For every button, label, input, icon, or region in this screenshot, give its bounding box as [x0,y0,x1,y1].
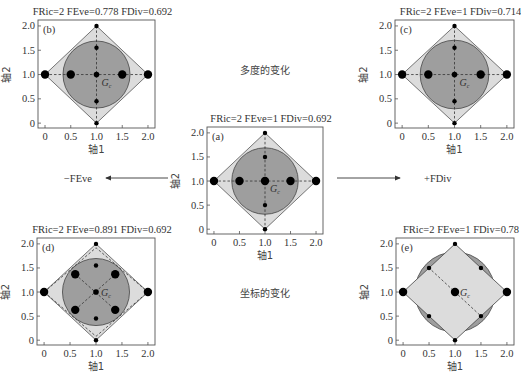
species-point [479,314,483,318]
y-tick-label: 0 [199,224,204,235]
x-tick-label: 1.5 [116,131,129,142]
panel-a: FRic=2 FEve=1 FDiv=0.692Gc(a)000.50.51.0… [169,113,332,261]
species-point [427,266,431,270]
panel-title: FRic=2 FEve=0.891 FDiv=0.692 [32,224,172,235]
x-tick-label: 2.0 [141,131,154,142]
species-point [94,338,98,342]
panel-title: FRic=2 FEve=1 FDiv=0.714 [400,6,521,17]
species-point [93,289,99,295]
x-tick-label: 2.0 [500,131,513,142]
x-tick-label: 1.5 [115,348,128,359]
x-tick-label: 1.0 [448,348,461,359]
y-axis-label: 轴2 [0,66,12,82]
panel-b: FRic=2 FEve=0.778 FDiv=0.692Gc(b)000.50.… [0,6,172,155]
species-point [67,70,75,78]
species-point [210,177,218,185]
species-point [452,24,456,28]
panel-c: FRic=2 FEve=1 FDiv=0.714Gc(c)000.50.51.0… [357,6,521,155]
y-tick-label: 0 [388,335,393,346]
x-tick-label: 0 [211,237,216,248]
x-tick-label: 2.0 [500,348,513,359]
species-point [453,338,457,342]
x-tick-label: 1.0 [258,237,271,248]
y-tick-label: 0 [387,118,392,129]
x-tick-label: 0.5 [422,348,435,359]
y-tick-label: 0 [30,118,35,129]
panel-letter: (e) [401,242,413,254]
species-point [503,70,511,78]
y-tick-label: 2.0 [22,20,35,31]
species-point [41,70,49,78]
species-point [94,24,98,28]
y-axis-label: 轴2 [358,284,370,300]
species-point [144,288,152,296]
species-point [118,70,126,78]
panel-letter: (d) [42,242,55,254]
x-tick-label: 1.0 [89,348,102,359]
panel-letter: (c) [400,24,412,36]
species-point [40,288,48,296]
x-tick-label: 1.0 [448,131,461,142]
y-axis-label: 轴2 [0,284,11,300]
x-axis-label: 轴1 [447,360,463,372]
species-point [503,288,511,296]
x-tick-label: 0 [400,131,405,142]
species-point [94,99,98,103]
species-point [453,242,457,246]
y-tick-label: 1.5 [22,45,35,56]
species-point [424,70,432,78]
y-tick-label: 0.5 [22,93,35,104]
panel-title: FRic=2 FEve=0.778 FDiv=0.692 [33,6,173,17]
species-point [263,203,267,207]
x-tick-label: 0.5 [233,237,246,248]
species-point [263,155,267,159]
minus-feve-label: −FEve [64,173,92,184]
species-point [71,306,79,314]
y-tick-label: 1.0 [21,287,34,298]
centroid-subscript: c [277,189,280,195]
panel-title: FRic=2 FEve=1 FDiv=0.692 [210,113,331,124]
species-point [476,70,484,78]
right-arrow: +FDiv [337,173,452,184]
panel-letter: (a) [212,131,224,143]
y-tick-label: 0.5 [21,311,34,322]
species-point [261,177,269,185]
y-tick-label: 1.0 [380,287,393,298]
x-tick-label: 1.5 [474,348,487,359]
y-tick-label: 0.5 [380,311,393,322]
y-tick-label: 0.5 [379,93,392,104]
species-point [263,131,267,135]
y-tick-label: 1.0 [22,69,35,80]
species-point [111,306,119,314]
y-axis-label: 轴2 [169,173,181,189]
panel-e: FRic=2 FEve=1 FDiv=0.78Gc(e)000.50.51.01… [358,224,519,372]
x-axis-label: 轴1 [88,360,104,372]
species-point [94,72,100,78]
panel-title: FRic=2 FEve=1 FDiv=0.78 [403,224,519,235]
y-tick-label: 0 [29,335,34,346]
y-tick-label: 0.5 [191,200,204,211]
species-point [452,72,458,78]
species-point [452,46,456,50]
x-tick-label: 1.5 [284,237,297,248]
x-axis-label: 轴1 [88,143,104,155]
species-point [144,70,152,78]
centroid-subscript: c [467,83,470,89]
x-axis-label: 轴1 [257,249,273,261]
x-tick-label: 0.5 [63,348,76,359]
species-point [452,121,456,125]
centroid-subscript: c [108,293,111,299]
species-point [286,177,294,185]
species-point [111,270,119,278]
panel-letter: (b) [43,24,56,36]
centroid-subscript: c [467,293,470,299]
x-tick-label: 0.5 [422,131,435,142]
species-point [94,263,98,267]
functional-diversity-figure: FRic=2 FEve=1 FDiv=0.692Gc(a)000.50.51.0… [0,0,521,376]
plus-fdiv-label: +FDiv [424,173,452,184]
coordinate-change-label: 坐标的变化 [240,287,290,299]
x-tick-label: 0 [42,131,47,142]
y-tick-label: 1.5 [21,262,34,273]
species-point [398,70,406,78]
y-tick-label: 2.0 [21,238,34,249]
